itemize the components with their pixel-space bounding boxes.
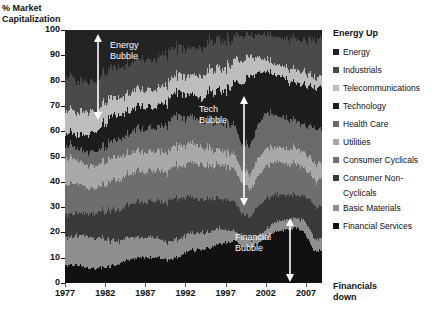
x-axis-tick-label: 1992 — [163, 288, 207, 298]
legend-item-label: Technology — [343, 101, 386, 111]
legend-swatch-icon — [333, 103, 339, 109]
x-axis-tick-mark — [266, 283, 267, 287]
legend-item[interactable]: Cyclicals — [333, 188, 445, 198]
legend-item-label: Consumer Non- — [343, 173, 403, 183]
y-axis-tick-label: 40 — [20, 176, 60, 186]
legend-item[interactable]: Health Care — [333, 119, 445, 129]
y-axis-tick-label: 10 — [20, 252, 60, 262]
y-axis-tick-label: 20 — [20, 226, 60, 236]
x-axis-tick-label: 1997 — [204, 288, 248, 298]
x-axis-tick-mark — [226, 283, 227, 287]
legend-item[interactable]: Telecommunications — [333, 83, 445, 93]
legend-swatch-icon — [333, 223, 339, 229]
tech-bubble-arrow-icon — [237, 96, 251, 206]
legend-header: Energy Up — [333, 28, 445, 38]
energy-bubble-arrow-icon — [91, 34, 105, 120]
legend-swatch-icon — [333, 67, 339, 73]
y-axis-tick-label: 30 — [20, 201, 60, 211]
legend-swatch-icon — [333, 85, 339, 91]
legend-item[interactable]: Technology — [333, 101, 445, 111]
legend-swatch-icon — [333, 121, 339, 127]
x-axis-tick-mark — [306, 283, 307, 287]
legend-item[interactable]: Consumer Non- — [333, 173, 445, 183]
legend-swatch-icon — [333, 139, 339, 145]
x-axis-tick-mark — [145, 283, 146, 287]
chart-legend: Energy Up EnergyIndustrialsTelecommunica… — [333, 28, 445, 239]
y-axis-tick-label: 80 — [20, 75, 60, 85]
y-axis-tick-label: 0 — [20, 277, 60, 287]
legend-item-label: Energy — [343, 47, 370, 57]
y-axis-tick-label: 100 — [20, 24, 60, 34]
x-axis-tick-label: 2007 — [284, 288, 328, 298]
y-axis-tick-label: 60 — [20, 125, 60, 135]
y-axis-tick-label: 50 — [20, 151, 60, 161]
legend-swatch-icon — [333, 157, 339, 163]
legend-item[interactable]: Energy — [333, 47, 445, 57]
legend-swatch-icon — [333, 205, 339, 211]
legend-item[interactable]: Basic Materials — [333, 203, 445, 213]
legend-item-label: Utilities — [343, 137, 370, 147]
financial-bubble-arrow-icon — [283, 218, 297, 282]
legend-swatch-icon — [333, 190, 339, 196]
legend-item-label: Health Care — [343, 119, 388, 129]
x-axis-tick-label: 1977 — [43, 288, 87, 298]
legend-item-label: Financial Services — [343, 221, 412, 231]
x-axis-tick-label: 1982 — [83, 288, 127, 298]
y-axis-tick-label: 90 — [20, 49, 60, 59]
annotation-energy-bubble: Energy Bubble — [110, 40, 139, 62]
legend-item-label: Cyclicals — [343, 188, 377, 198]
chart-plot-area: Energy Bubble Tech Bubble Financial Bubb… — [65, 30, 322, 283]
legend-item-label: Industrials — [343, 65, 382, 75]
legend-item[interactable]: Utilities — [333, 137, 445, 147]
legend-swatch-icon — [333, 175, 339, 181]
legend-item[interactable]: Industrials — [333, 65, 445, 75]
x-axis-tick-mark — [185, 283, 186, 287]
legend-footer: Financials down — [333, 281, 377, 303]
annotation-financial-bubble: Financial Bubble — [235, 232, 271, 254]
x-axis-tick-mark — [65, 283, 66, 287]
legend-item[interactable]: Financial Services — [333, 221, 445, 231]
y-axis-title: % Market Capitalization — [2, 3, 88, 25]
legend-item-label: Telecommunications — [343, 83, 420, 93]
y-axis-tick-label: 70 — [20, 100, 60, 110]
legend-item[interactable]: Consumer Cyclicals — [333, 155, 445, 165]
annotation-tech-bubble: Tech Bubble — [199, 104, 227, 126]
x-axis-tick-mark — [105, 283, 106, 287]
legend-items: EnergyIndustrialsTelecommunicationsTechn… — [333, 47, 445, 231]
x-axis-tick-label: 1987 — [123, 288, 167, 298]
legend-item-label: Basic Materials — [343, 203, 401, 213]
legend-swatch-icon — [333, 49, 339, 55]
x-axis-tick-label: 2002 — [244, 288, 288, 298]
legend-item-label: Consumer Cyclicals — [343, 155, 418, 165]
